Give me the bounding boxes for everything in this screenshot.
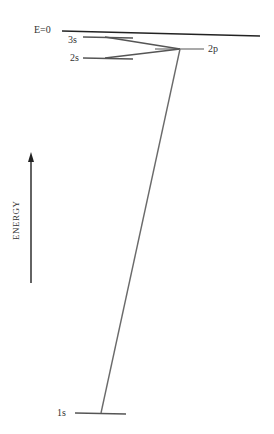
energy-arrow-head-icon xyxy=(28,152,34,162)
level-label-2s: 2s xyxy=(70,52,79,63)
transition-3s-2p xyxy=(105,37,180,49)
zero-level-label: E=0 xyxy=(34,24,51,35)
level-label-2p: 2p xyxy=(208,43,218,54)
transition-2p-1s xyxy=(101,49,180,413)
energy-axis-label: ENERGY xyxy=(11,201,21,241)
energy-level-diagram: E=0 3s 2s 2p 1s ENERGY xyxy=(0,0,274,434)
level-label-3s: 3s xyxy=(68,34,77,45)
transition-2s-2p xyxy=(105,49,180,58)
zero-energy-line xyxy=(62,31,260,36)
level-line-1s xyxy=(75,413,126,414)
level-label-1s: 1s xyxy=(57,407,66,418)
